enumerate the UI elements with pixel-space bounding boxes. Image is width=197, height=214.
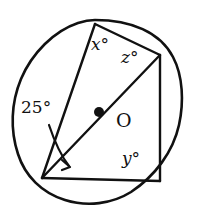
geometry-figure: x° z° y° 25° O [0,0,197,214]
angle-label-25: 25° [21,99,51,116]
center-point-dot [94,107,104,117]
angle-label-x: x° [91,36,109,53]
center-label-O: O [116,111,132,130]
chord-bottom-side [42,178,160,181]
angle-label-y: y° [122,150,140,167]
angle-label-z: z° [121,49,138,66]
